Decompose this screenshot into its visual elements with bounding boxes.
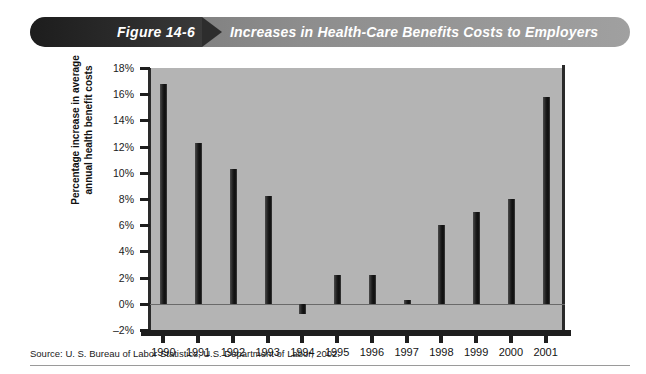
y-axis-tick-mark (140, 329, 150, 332)
x-axis-tick-label: 2001 (524, 346, 568, 358)
y-axis-title-line-1: Percentage increase in average (69, 40, 82, 220)
y-axis-tick-label: 8% (100, 194, 134, 204)
chart-bar (473, 212, 480, 304)
y-axis-tick-label: 2% (100, 273, 134, 283)
x-axis-tick-mark (300, 336, 304, 343)
y-axis-tick-mark (140, 146, 150, 149)
y-axis-tick-mark (140, 250, 150, 253)
chart-bar (508, 199, 515, 304)
y-axis-tick-label: 6% (100, 220, 134, 230)
chevron-right-icon (202, 17, 222, 47)
x-axis-tick-mark (474, 336, 478, 343)
y-axis-tick-label: –2% (100, 325, 134, 335)
chart-bar (160, 84, 167, 304)
y-axis-tick-label: 0% (100, 299, 134, 309)
y-axis-tick-mark (140, 224, 150, 227)
x-axis-tick-mark (231, 336, 235, 343)
x-axis-tick-mark (196, 336, 200, 343)
y-axis-title-line-2: annual health benefit costs (82, 40, 95, 220)
y-axis-tick-label: 4% (100, 246, 134, 256)
y-axis-tick-mark (140, 277, 150, 280)
zero-baseline (148, 304, 565, 305)
y-axis-tick-mark (140, 93, 150, 96)
y-axis-tick-mark (140, 198, 150, 201)
y-axis-tick-mark (140, 67, 150, 70)
chart-bar (265, 196, 272, 303)
y-axis-tick-mark (140, 172, 150, 175)
y-axis-tick-label: 12% (100, 142, 134, 152)
x-axis-tick-mark (335, 336, 339, 343)
chart-bar (543, 97, 550, 304)
footer-divider (30, 365, 630, 366)
plot-area (148, 68, 565, 330)
x-axis-tick-mark (161, 336, 165, 343)
chart-bar (369, 275, 376, 304)
chart-bar (299, 304, 306, 314)
figure-number-label: Figure 14-6 (30, 17, 195, 47)
x-axis-tick-mark (405, 336, 409, 343)
x-axis-tick-mark (370, 336, 374, 343)
y-axis-tick-label: 18% (100, 63, 134, 73)
x-axis-tick-mark (266, 336, 270, 343)
y-axis-tick-label: 10% (100, 168, 134, 178)
chart-bar (334, 275, 341, 304)
x-axis-tick-mark (509, 336, 513, 343)
source-note: Source: U. S. Bureau of Labor Statistics… (30, 348, 340, 359)
x-axis-tick-mark (439, 336, 443, 343)
chart: Percentage increase in average annual he… (0, 55, 646, 335)
x-axis-line (141, 330, 571, 336)
y-axis-tick-label: 14% (100, 115, 134, 125)
figure-title: Increases in Health-Care Benefits Costs … (230, 17, 620, 47)
chart-bar (404, 300, 411, 304)
y-axis-tick-mark (140, 303, 150, 306)
y-axis-tick-mark (140, 119, 150, 122)
x-axis-tick-mark (544, 336, 548, 343)
plot-right-border (562, 65, 565, 330)
chart-bar (230, 169, 237, 304)
y-axis-tick-label: 16% (100, 89, 134, 99)
chart-bar (195, 143, 202, 304)
y-axis-title: Percentage increase in average annual he… (69, 40, 95, 220)
chart-bar (438, 225, 445, 304)
figure-banner: Figure 14-6 Increases in Health-Care Ben… (30, 17, 630, 47)
